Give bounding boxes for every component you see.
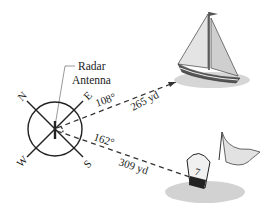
arrowhead-boat <box>168 82 176 87</box>
east-label: E <box>81 89 94 102</box>
buoy-icon: 7 <box>165 132 260 203</box>
radar-diagram: Radar Antenna N E S W 108° 265 yd 162° 3… <box>0 0 278 216</box>
svg-text:Radar: Radar <box>78 60 106 72</box>
distance-buoy-label: 309 yd <box>117 155 150 176</box>
west-label: W <box>14 153 30 169</box>
distance-boat-label: 265 yd <box>128 88 161 113</box>
svg-text:Antenna: Antenna <box>72 74 111 86</box>
south-label: S <box>81 157 94 170</box>
compass-icon <box>27 101 83 157</box>
sailboat-icon <box>174 12 250 88</box>
angle-boat-label: 108° <box>94 90 118 108</box>
angle-buoy-label: 162° <box>92 130 116 148</box>
north-label: N <box>15 89 29 103</box>
